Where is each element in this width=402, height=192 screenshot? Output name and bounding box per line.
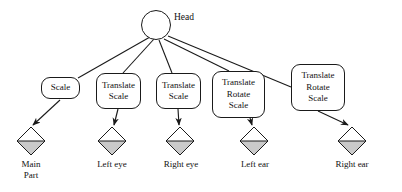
leaf-diamond-main-part [17,127,45,155]
arrow-scale-to-main-part [33,100,60,125]
node-translate-rotate-scale-left-ear[interactable]: Translate Rotate Scale [212,71,265,118]
node-translate-scale-left-eye[interactable]: Translate Scale [96,73,141,109]
leaf-label-left-ear-line-1: Left ear [226,159,284,170]
node-translate-scale-left-eye-line-2: Scale [109,91,129,103]
leaf-label-right-ear: Right ear [322,159,382,170]
leaf-label-left-ear: Left ear [226,159,284,170]
arrow-translate-rotate-scale-to-left-ear [250,118,252,125]
node-translate-rotate-scale-right-ear-line-2: Rotate [306,82,330,94]
leaf-label-right-ear-line-1: Right ear [322,159,382,170]
node-translate-rotate-scale-right-ear-line-3: Scale [308,93,328,105]
node-translate-rotate-scale-left-ear-line-1: Translate [222,77,255,89]
node-translate-scale-right-eye-line-1: Translate [162,80,195,92]
root-node-head-label: Head [174,12,194,23]
edge-head-to-translate-scale-right-eye [159,40,172,73]
leaf-diamond-left-eye [98,127,126,155]
leaf-label-main-part-line-1: Main [7,159,55,170]
arrow-translate-scale-to-right-eye [178,109,179,125]
arrow-translate-rotate-scale-to-right-ear [318,111,348,125]
node-translate-scale-right-eye[interactable]: Translate Scale [156,73,201,109]
node-translate-rotate-scale-right-ear[interactable]: Translate Rotate Scale [291,64,345,111]
leaf-label-left-eye-line-1: Left eye [82,159,142,170]
node-scale-main[interactable]: Scale [41,77,80,99]
node-translate-rotate-scale-right-ear-line-1: Translate [301,70,334,82]
node-translate-rotate-scale-left-ear-line-3: Scale [229,100,249,112]
leaf-label-main-part: Main Part [7,159,55,181]
root-node-head[interactable] [141,10,171,40]
leaf-diamond-right-eye [166,127,194,155]
leaf-label-right-eye-line-1: Right eye [150,159,212,170]
node-scale-main-line-1: Scale [51,82,71,94]
edge-head-to-translate-rotate-scale-left-ear [164,39,229,71]
node-translate-scale-right-eye-line-2: Scale [169,91,189,103]
leaf-diamond-left-ear [240,127,268,155]
arrow-translate-scale-to-left-eye [114,109,118,125]
leaf-label-main-part-line-2: Part [7,170,55,181]
node-translate-rotate-scale-left-ear-line-2: Rotate [227,89,251,101]
node-translate-scale-left-eye-line-1: Translate [102,80,135,92]
leaf-label-left-eye: Left eye [82,159,142,170]
scene-graph-diagram: Head Scale Translate Scale Translate Sca… [0,0,402,192]
leaf-label-right-eye: Right eye [150,159,212,170]
leaf-diamond-right-ear [338,127,366,155]
edge-head-to-scale [78,37,150,78]
